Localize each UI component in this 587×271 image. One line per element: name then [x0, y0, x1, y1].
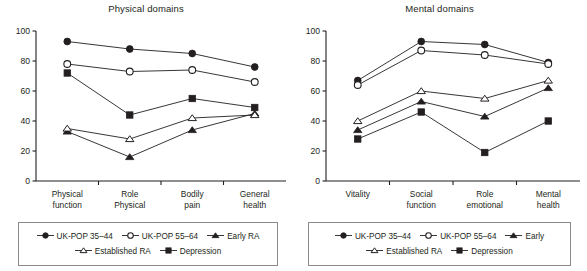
data-point: [417, 98, 425, 104]
data-point: [64, 70, 70, 76]
data-point: [545, 118, 551, 124]
data-point: [481, 52, 488, 59]
x-axis-category-label: pain: [184, 200, 200, 210]
open-circle-icon: [122, 230, 139, 243]
legend-label: Early: [525, 232, 544, 241]
open-circle-icon: [420, 230, 437, 243]
legend-label: UK-POP 35–44: [355, 232, 411, 241]
data-point: [189, 50, 196, 57]
y-axis-tick-label: 60: [20, 86, 30, 96]
legend-item-depression: Depression: [451, 245, 512, 258]
data-point: [127, 112, 133, 118]
x-axis-category-label: Vitality: [345, 189, 370, 199]
data-point: [251, 64, 258, 71]
data-point: [126, 68, 133, 75]
legend-label: UK-POP 55–64: [440, 232, 496, 241]
data-point: [417, 88, 425, 94]
x-axis-category-label: function: [407, 200, 437, 210]
figure-two-panel-sf36: Physical domains 020406080100Physicalfun…: [0, 0, 587, 271]
open-triangle-icon: [366, 245, 383, 258]
x-axis-category-label: emotional: [467, 200, 503, 210]
filled-circle-icon: [335, 230, 352, 243]
legend-row-2: Established RA Depression: [75, 245, 221, 258]
legend-item-early-ra: Early RA: [207, 230, 259, 243]
x-axis-category-label: Bodily: [181, 189, 205, 199]
legend-label: Early RA: [227, 232, 259, 241]
legend-item-established-ra: Established RA: [366, 245, 442, 258]
legend-item-depression: Depression: [160, 245, 221, 258]
chart-panel-physical-domains: Physical domains 020406080100Physicalfun…: [0, 0, 292, 271]
y-axis-tick-label: 20: [310, 146, 320, 156]
x-axis-category-label: Physical: [52, 189, 83, 199]
data-point: [251, 79, 258, 86]
data-point: [418, 38, 425, 45]
y-axis-tick-label: 100: [16, 26, 31, 36]
legend-mental: UK-POP 35–44 UK-POP 55–64 Early Establis…: [308, 222, 571, 266]
data-point: [544, 85, 552, 91]
series-line: [67, 114, 255, 158]
legend-label: UK-POP 35–44: [57, 232, 113, 241]
legend-label: Depression: [180, 247, 221, 256]
data-point: [481, 41, 488, 48]
series-line: [67, 73, 255, 115]
plot-area-mental: 020406080100VitalitySocialfunctionRoleem…: [292, 0, 587, 222]
data-point: [63, 125, 71, 131]
x-axis-category-label: health: [243, 200, 266, 210]
data-point: [545, 61, 552, 68]
x-axis-category-label: Physical: [114, 200, 145, 210]
chart-panel-mental-domains: Mental domains 020406080100VitalitySocia…: [292, 0, 587, 271]
data-point: [126, 154, 134, 160]
data-point: [354, 118, 362, 124]
open-triangle-icon: [75, 245, 92, 258]
legend-label: Established RA: [95, 247, 151, 256]
legend-item-uk-pop-55-64: UK-POP 55–64: [122, 230, 198, 243]
series-line: [358, 51, 549, 86]
series-line: [358, 42, 549, 81]
data-point: [64, 61, 71, 68]
legend-item-established-ra: Established RA: [75, 245, 151, 258]
data-point: [418, 109, 424, 115]
data-point: [64, 38, 71, 45]
legend-item-uk-pop-55-64: UK-POP 55–64: [420, 230, 496, 243]
y-axis-tick-label: 0: [315, 176, 320, 186]
legend-row-1: UK-POP 35–44 UK-POP 55–64 Early RA: [37, 230, 260, 243]
legend-label: Depression: [471, 247, 512, 256]
data-point: [354, 127, 362, 133]
filled-triangle-icon: [207, 230, 224, 243]
legend-item-uk-pop-35-44: UK-POP 35–44: [335, 230, 411, 243]
data-point: [418, 47, 425, 54]
y-axis-tick-label: 100: [306, 26, 321, 36]
filled-square-icon: [160, 245, 177, 258]
legend-row-1: UK-POP 35–44 UK-POP 55–64 Early: [335, 230, 544, 243]
legend-row-2: Established RA Depression: [366, 245, 512, 258]
x-axis-category-label: Role: [121, 189, 139, 199]
x-axis-category-label: Social: [410, 189, 433, 199]
legend-item-uk-pop-35-44: UK-POP 35–44: [37, 230, 113, 243]
x-axis-category-label: health: [537, 200, 560, 210]
data-point: [252, 104, 258, 110]
y-axis-tick-label: 40: [310, 116, 320, 126]
y-axis-tick-label: 80: [310, 56, 320, 66]
data-point: [354, 82, 361, 89]
data-point: [126, 46, 133, 53]
y-axis-tick-label: 60: [310, 86, 320, 96]
data-point: [189, 67, 196, 74]
x-axis-category-label: General: [240, 189, 270, 199]
x-axis-category-label: function: [53, 200, 83, 210]
filled-triangle-icon: [505, 230, 522, 243]
x-axis-category-label: Role: [476, 189, 494, 199]
x-axis-category-label: Mental: [536, 189, 561, 199]
filled-square-icon: [451, 245, 468, 258]
data-point: [482, 149, 488, 155]
data-point: [544, 77, 552, 83]
series-line: [67, 64, 255, 82]
legend-label: UK-POP 55–64: [142, 232, 198, 241]
data-point: [355, 136, 361, 142]
y-axis-tick-label: 20: [20, 146, 30, 156]
y-axis-tick-label: 40: [20, 116, 30, 126]
legend-label: Established RA: [386, 247, 442, 256]
series-line: [358, 112, 549, 153]
filled-circle-icon: [37, 230, 54, 243]
data-point: [189, 95, 195, 101]
series-line: [67, 115, 255, 139]
